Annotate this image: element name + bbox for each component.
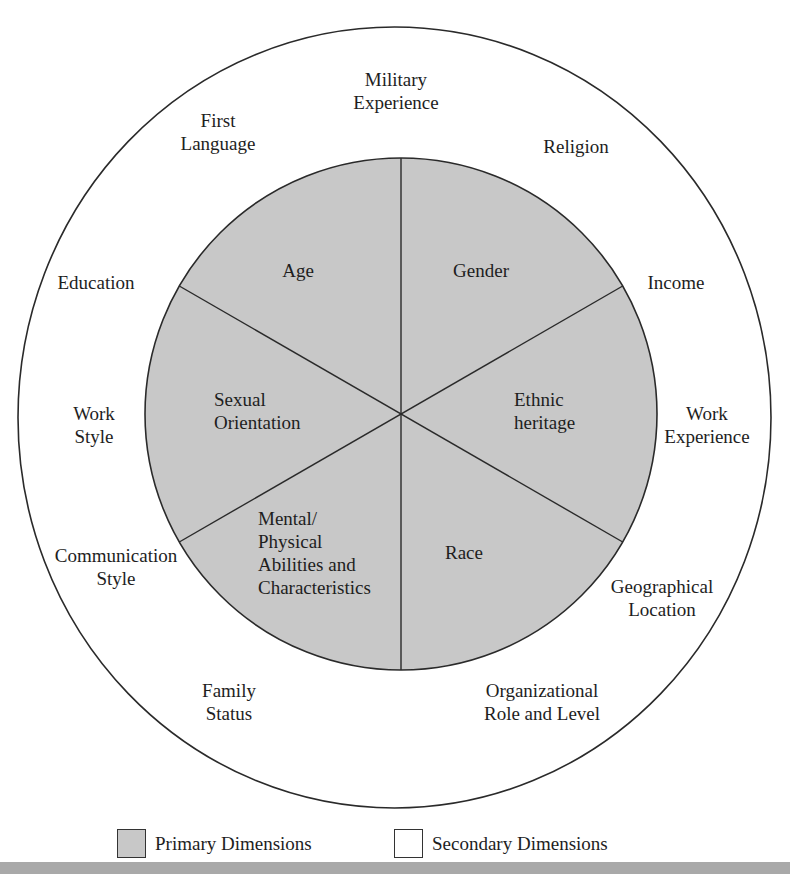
secondary-label-first-language: First Language — [181, 109, 256, 155]
secondary-label-organizational-role: Organizational Role and Level — [484, 679, 600, 725]
secondary-label-work-experience: Work Experience — [664, 402, 749, 448]
legend-item-primary: Primary Dimensions — [117, 829, 312, 858]
primary-label-ethnic-heritage: Ethnic heritage — [514, 388, 575, 434]
secondary-label-military-experience: Military Experience — [353, 68, 438, 114]
primary-label-mental-physical-abilities: Mental/ Physical Abilities and Character… — [258, 507, 371, 599]
secondary-label-religion: Religion — [543, 135, 608, 158]
secondary-label-education: Education — [57, 271, 134, 294]
primary-label-age: Age — [282, 259, 314, 282]
secondary-label-work-style: Work Style — [73, 402, 115, 448]
primary-label-gender: Gender — [453, 259, 509, 282]
secondary-label-geographical-location: Geographical Location — [611, 575, 713, 621]
secondary-swatch-icon — [394, 829, 423, 858]
secondary-label-communication-style: Communication Style — [55, 544, 177, 590]
legend: Primary Dimensions Secondary Dimensions — [0, 829, 790, 865]
bottom-edge-strip — [0, 862, 790, 874]
legend-secondary-label: Secondary Dimensions — [432, 833, 608, 855]
legend-primary-label: Primary Dimensions — [155, 833, 312, 855]
secondary-label-family-status: Family Status — [202, 679, 256, 725]
primary-swatch-icon — [117, 829, 146, 858]
secondary-label-income: Income — [648, 271, 705, 294]
legend-item-secondary: Secondary Dimensions — [394, 829, 608, 858]
primary-label-sexual-orientation: Sexual Orientation — [214, 388, 301, 434]
primary-label-race: Race — [445, 541, 483, 564]
